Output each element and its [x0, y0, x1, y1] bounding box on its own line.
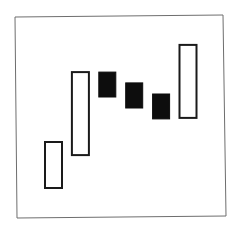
- candle-bearish: [153, 94, 170, 119]
- candle-bearish: [126, 83, 143, 108]
- candle-bullish: [180, 45, 197, 118]
- candlestick-chart: [0, 0, 239, 233]
- candle-bearish: [99, 72, 116, 97]
- candle-bullish: [45, 142, 62, 188]
- candle-bullish: [72, 72, 89, 155]
